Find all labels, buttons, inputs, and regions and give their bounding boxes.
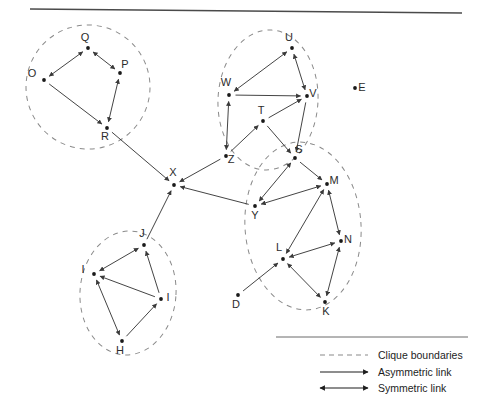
node-dot-l [281,257,285,261]
clique-boundary-hiji2 [76,228,180,358]
node-label-k: K [322,305,330,317]
node-dot-s [293,156,297,160]
node-label-n: N [344,233,352,245]
node-h: H [116,339,124,356]
clique-boundary-tuvwz [214,27,321,172]
edge-z-x-asymmetric [180,159,221,182]
node-dot-w [227,93,231,97]
node-label-i1: I [81,263,84,275]
edge-r-x-asymmetric [112,132,169,181]
node-dot-k [323,300,327,304]
edge-j-i1-symmetric [100,248,139,270]
edges-layer [49,52,339,336]
node-label-t: T [258,104,265,116]
node-label-e: E [358,81,365,93]
node-l: L [276,241,285,261]
network-diagram-figure: QPORUWVTZESMYNLKDXJIIH Clique boundaries… [0,0,477,408]
node-j: J [139,227,146,247]
node-r: R [101,126,109,142]
edge-m-l-symmetric [286,190,323,254]
node-dot-m [325,182,329,186]
node-label-d: D [232,298,240,310]
node-s: S [293,143,303,160]
edge-d-l-asymmetric [243,263,278,291]
node-y: Y [251,204,259,221]
node-d: D [232,293,240,310]
node-q: Q [81,31,90,50]
edge-m-n-symmetric [329,190,340,234]
edge-n-k-symmetric [327,247,340,295]
nodes-layer: QPORUWVTZESMYNLKDXJIIH [28,31,366,356]
edge-p-r-symmetric [109,79,119,121]
node-dot-t [261,119,265,123]
node-dot-v [305,94,309,98]
node-dot-e [353,86,357,90]
edge-t-s-asymmetric [267,126,291,153]
edge-i2-j-asymmetric [146,251,159,293]
node-label-i2: I [166,291,169,303]
node-dot-d [236,293,240,297]
edge-z-t-asymmetric [231,125,259,151]
node-u: U [285,31,294,50]
edge-y-x-asymmetric [180,187,248,205]
legend-label-asymmetric-link: Asymmetric link [378,366,452,378]
node-dot-j [142,243,146,247]
node-dot-p [118,71,122,75]
node-label-j: J [139,227,145,239]
node-label-u: U [285,31,293,43]
edge-o-q-symmetric [49,52,82,76]
edge-j-x-asymmetric [147,191,171,239]
node-m: M [325,174,338,186]
node-dot-o [42,78,46,82]
edge-w-u-symmetric [234,52,287,91]
legend: Clique boundaries Asymmetric link Symmet… [276,337,468,394]
node-label-q: Q [81,31,90,43]
edge-s-m-asymmetric [300,162,322,180]
node-v: V [305,87,317,99]
edge-t-v-asymmetric [269,99,302,118]
node-z: Z [224,153,235,165]
node-label-w: W [221,76,232,88]
node-x: X [169,166,177,187]
node-w: W [221,76,232,97]
edge-w-v-asymmetric [236,95,301,96]
node-label-r: R [101,130,109,142]
node-dot-i2 [159,297,163,301]
top-rule [30,9,462,13]
edge-i2-i1-asymmetric [100,276,155,296]
edge-u-v-symmetric [294,54,305,90]
node-dot-u [290,46,294,50]
node-label-v: V [309,87,317,99]
node-dot-y [253,204,257,208]
node-label-p: P [121,58,128,70]
edge-o-r-asymmetric [49,84,102,124]
node-label-o: O [28,67,37,79]
node-label-s: S [295,143,302,155]
node-label-x: X [169,166,177,178]
node-dot-q [86,46,90,50]
node-label-z: Z [228,153,235,165]
legend-label-clique-boundaries: Clique boundaries [378,349,463,361]
node-label-m: M [329,174,338,186]
edge-l-k-symmetric [288,264,321,298]
node-dot-n [339,239,343,243]
diagram-canvas: QPORUWVTZESMYNLKDXJIIH Clique boundaries… [0,0,477,408]
edge-q-p-symmetric [93,52,115,69]
node-dot-h [120,339,124,343]
edge-i1-h-symmetric [97,280,120,335]
legend-label-symmetric-link: Symmetric link [378,382,447,394]
edge-h-i2-asymmetric [126,304,156,336]
node-t: T [258,104,265,123]
node-n: N [339,233,352,245]
node-dot-x [172,183,176,187]
edge-n-l-symmetric [289,243,335,257]
node-p: P [118,58,129,75]
node-o: O [28,67,46,82]
node-label-h: H [116,344,124,356]
clique-boundaries-layer [10,9,367,358]
node-label-y: Y [251,209,259,221]
node-e: E [353,81,366,93]
node-i2: I [159,291,169,303]
node-i1: I [81,263,95,276]
edge-y-m-symmetric [261,186,321,204]
